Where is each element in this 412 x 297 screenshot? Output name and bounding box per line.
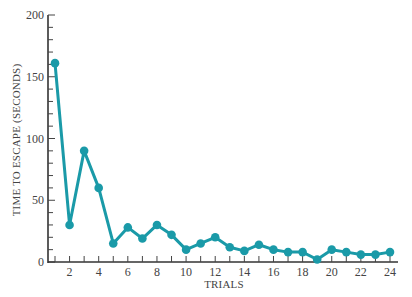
data-point [342, 248, 351, 257]
y-tick-label: 0 [38, 255, 44, 269]
data-point [211, 233, 220, 242]
data-point [357, 250, 366, 259]
data-point [386, 248, 395, 257]
data-point [51, 59, 60, 68]
x-tick-label: 6 [125, 265, 131, 279]
x-tick-label: 18 [297, 265, 309, 279]
x-tick-label: 8 [154, 265, 160, 279]
data-point [298, 248, 307, 257]
x-axis-title: TRIALS [204, 278, 244, 290]
data-point [94, 184, 103, 193]
y-axis: 050100150200 [26, 8, 55, 269]
y-tick-label: 100 [26, 132, 44, 146]
data-point [327, 245, 336, 254]
y-tick-label: 200 [26, 8, 44, 22]
x-tick-label: 24 [384, 265, 396, 279]
x-tick-label: 22 [355, 265, 367, 279]
series-line [55, 63, 390, 259]
data-point [109, 239, 118, 248]
x-tick-label: 4 [96, 265, 102, 279]
data-point [196, 239, 205, 248]
x-tick-label: 10 [180, 265, 192, 279]
data-point [138, 234, 147, 243]
data-point [225, 243, 234, 252]
y-axis-title: TIME TO ESCAPE (SECONDS) [10, 64, 23, 217]
data-point [65, 221, 74, 230]
data-point [124, 223, 133, 232]
data-point [153, 221, 162, 230]
x-tick-label: 16 [267, 265, 279, 279]
data-point [80, 147, 89, 156]
data-series [51, 59, 395, 264]
data-point [255, 240, 264, 249]
data-point [371, 250, 380, 259]
data-point [284, 248, 293, 257]
x-tick-label: 2 [67, 265, 73, 279]
data-point [182, 245, 191, 254]
x-tick-label: 12 [209, 265, 221, 279]
x-tick-label: 14 [238, 265, 250, 279]
y-tick-label: 150 [26, 70, 44, 84]
data-point [240, 247, 249, 256]
x-tick-label: 20 [326, 265, 338, 279]
data-point [313, 255, 322, 264]
data-point [269, 245, 278, 254]
y-tick-label: 50 [32, 193, 44, 207]
line-chart: 050100150200 24681012141618202224 TRIALS… [0, 0, 412, 297]
x-axis: 24681012141618202224 [48, 256, 398, 279]
data-point [167, 231, 176, 240]
